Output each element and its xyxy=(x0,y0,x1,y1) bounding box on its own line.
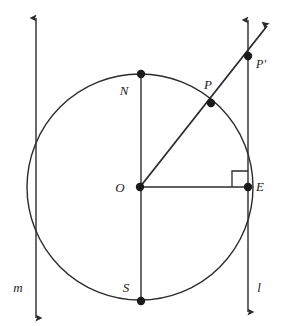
geometry-figure: m l N S O E P P' xyxy=(0,0,285,326)
point-Pprime xyxy=(244,52,252,60)
label-point-o: O xyxy=(115,181,124,194)
label-line-m: m xyxy=(13,281,22,294)
label-line-l: l xyxy=(257,281,261,294)
label-point-n: N xyxy=(120,84,129,97)
label-point-p-prime: P' xyxy=(256,58,266,70)
point-O xyxy=(136,183,144,191)
point-N xyxy=(137,70,145,78)
label-point-e: E xyxy=(256,180,264,193)
point-E xyxy=(244,183,252,191)
point-P xyxy=(207,99,215,107)
label-point-p: P xyxy=(204,78,212,91)
point-dots xyxy=(136,52,252,305)
geometry-canvas xyxy=(0,0,285,326)
label-point-s: S xyxy=(123,281,130,294)
point-S xyxy=(137,297,145,305)
